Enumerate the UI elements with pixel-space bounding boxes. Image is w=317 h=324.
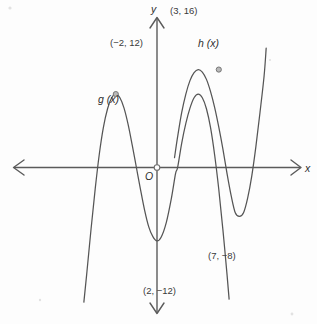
label-origin: O: [145, 170, 153, 182]
label-h-max-point: (3, 16): [170, 5, 197, 16]
label-y-axis: y: [150, 3, 157, 15]
origin-marker: [154, 165, 160, 171]
label-g-function: g (x): [98, 93, 119, 105]
label-x-axis: x: [304, 162, 311, 174]
scan-noise: [8, 6, 293, 315]
label-h-min-point: (7, −8): [208, 250, 236, 261]
vertex-marker-h-maximum: [216, 67, 221, 72]
label-g-min-point: (2, −12): [143, 285, 176, 296]
label-g-max-point: (−2, 12): [110, 37, 143, 48]
label-h-function: h (x): [198, 37, 219, 49]
coordinate-plane-svg: (−2, 12) (3, 16) (2, −12) (7, −8) g (x) …: [0, 0, 317, 324]
curve-h-of-x: [175, 48, 267, 216]
graph-figure: (−2, 12) (3, 16) (2, −12) (7, −8) g (x) …: [0, 0, 317, 324]
